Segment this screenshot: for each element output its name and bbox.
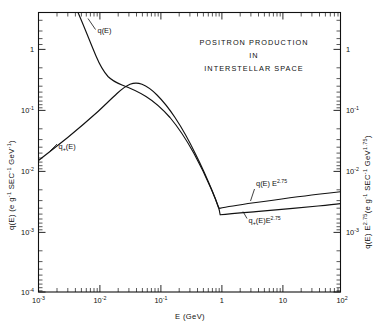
chart-title-line-1: POSITRON PRODUCTION (199, 38, 308, 47)
x-tick-label-4: 10 (279, 296, 287, 305)
y-axis-left-title: q(E) (e g-1 SEC-1 GeV-1) (6, 140, 16, 230)
chart-title-line-2: IN (249, 51, 258, 60)
y-right-tick-label-0: 1 (346, 45, 350, 54)
curve-label-q-total: q(E) (98, 26, 112, 35)
x-tick-label-3: 1 (220, 296, 224, 305)
chart-background (0, 0, 379, 327)
curve-label-q-plus: q+(E) (59, 142, 76, 152)
y-left-tick-label-0: 1 (30, 45, 34, 54)
positron-production-chart: q(E) q+(E) q(E) E2.75 q+(E)E2.75 POSITRO… (0, 0, 379, 327)
figure-container: q(E) q+(E) q(E) E2.75 q+(E)E2.75 POSITRO… (0, 0, 379, 327)
y-axis-right-title: q(E) E2.75(e g-1 SEC-1 GeV1.75) (362, 135, 372, 249)
x-axis-title: E (GeV) (175, 312, 205, 321)
chart-title-line-3: INTERSTELLAR SPACE (204, 64, 303, 73)
